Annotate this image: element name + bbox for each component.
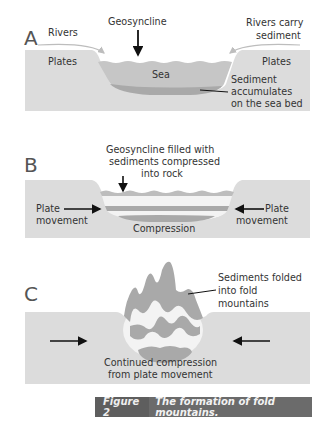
label-continued-1: Continued compression xyxy=(104,357,217,368)
label-folded-3: mountains xyxy=(218,298,269,309)
label-folded-2: into fold xyxy=(218,285,257,296)
label-rivers: Rivers xyxy=(48,27,78,38)
label-folded-1: Sediments folded xyxy=(218,272,302,283)
figure-caption-text: The formation of fold mountains. xyxy=(149,396,312,418)
label-plate-right-1: Plate xyxy=(265,203,289,214)
label-plate-left-1: Plate xyxy=(36,203,60,214)
label-plates-right: Plates xyxy=(262,56,291,67)
label-geosyncline: Geosyncline xyxy=(108,16,167,27)
figure-number: Figure 2 xyxy=(95,397,149,417)
label-rivers-carry-sediment: sediment xyxy=(256,30,301,41)
label-sea: Sea xyxy=(152,69,170,80)
panel-letter-a: A xyxy=(24,28,38,48)
figure-caption: Figure 2 The formation of fold mountains… xyxy=(95,397,312,417)
panel-letter-c: C xyxy=(24,284,38,304)
label-geo-filled-1: Geosyncline filled with xyxy=(106,144,214,155)
label-plate-right-2: movement xyxy=(236,215,288,226)
label-sediment-3: on the sea bed xyxy=(231,98,303,109)
label-plates-left: Plates xyxy=(48,56,77,67)
label-plate-left-2: movement xyxy=(36,215,88,226)
label-rivers-carry: Rivers carry xyxy=(246,17,303,28)
label-sediment-1: Sediment xyxy=(231,74,277,85)
label-continued-2: from plate movement xyxy=(108,369,213,380)
label-geo-filled-2: sediments compressed xyxy=(109,156,220,167)
label-sediment-2: accumulates xyxy=(231,86,292,97)
label-compression: Compression xyxy=(133,223,195,234)
label-geo-filled-3: into rock xyxy=(141,168,183,179)
panel-letter-b: B xyxy=(24,155,38,175)
